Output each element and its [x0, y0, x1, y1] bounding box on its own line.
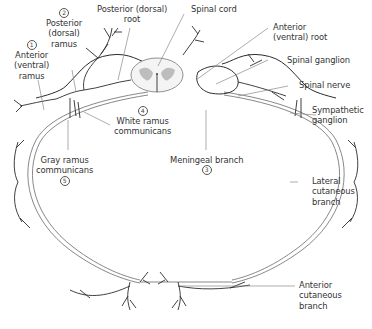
anterior-cutaneous-branches: [70, 272, 250, 310]
label-meningeal-branch: Meningeal branch 3: [170, 155, 243, 175]
label-spinal-cord: Spinal cord: [191, 4, 237, 14]
number-badge: 5: [60, 176, 70, 186]
label-spinal-ganglion: Spinal ganglion: [287, 55, 350, 65]
label-anterior-cutaneous: Anterior cutaneous branch: [299, 280, 342, 311]
spinal-cord: [131, 58, 183, 92]
number-badge: 4: [138, 106, 148, 116]
label-anterior-ramus: 1 Anterior (ventral) ramus: [14, 40, 49, 81]
right-rami: [183, 26, 286, 100]
number-badge: 1: [27, 40, 37, 50]
number-badge: 3: [202, 165, 212, 175]
label-sympathetic-ganglion: Sympathetic ganglion: [312, 105, 364, 126]
leader-lines: [38, 14, 316, 286]
label-posterior-root: Posterior (dorsal) root: [97, 4, 167, 25]
label-white-ramus: 4 White ramus communicans: [114, 106, 171, 137]
label-anterior-root: Anterior (ventral) root: [273, 22, 327, 43]
label-gray-ramus: Gray ramus communicans 5: [36, 155, 93, 186]
label-spinal-nerve: Spinal nerve: [299, 80, 350, 90]
spinal-ganglion-shape: [197, 66, 238, 94]
label-lateral-cutaneous: Lateral cutaneous branch: [312, 176, 355, 207]
number-badge: 2: [59, 8, 69, 18]
label-posterior-ramus: 2 Posterior (dorsal) ramus: [46, 8, 82, 49]
